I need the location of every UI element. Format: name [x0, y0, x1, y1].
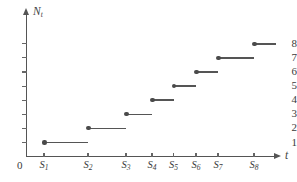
x-tick-S8	[253, 153, 254, 158]
step-segment-level-6	[196, 71, 218, 73]
step-segment-level-3	[126, 114, 152, 116]
x-tick-S4	[151, 153, 152, 158]
x-tick-label-subscript: 1	[45, 163, 49, 172]
step-segment-level-2	[88, 128, 126, 130]
jump-point-S2	[86, 126, 90, 130]
jump-point-S1	[42, 140, 46, 144]
x-tick-label-subscript: 3	[127, 163, 131, 172]
x-tick-S6	[195, 153, 196, 158]
x-axis-label: t	[285, 150, 288, 162]
step-segment-level-7	[218, 57, 254, 59]
y-axis-label-base: N	[33, 5, 41, 17]
y-tick-label-3: 3	[283, 108, 297, 119]
x-tick-label-subscript: 4	[153, 163, 157, 172]
y-tick-label-2: 2	[283, 122, 297, 133]
jump-point-S8	[252, 42, 256, 46]
x-tick-S3	[125, 153, 126, 158]
y-tick-label-7: 7	[283, 52, 297, 63]
x-tick-label-S8: S8	[250, 160, 259, 171]
y-tick-7	[22, 57, 27, 58]
y-tick-8	[22, 43, 27, 44]
x-tick-S2	[87, 153, 88, 158]
y-tick-6	[22, 71, 27, 72]
y-tick-label-5: 5	[283, 80, 297, 91]
x-tick-label-S6: S6	[192, 160, 201, 171]
x-tick-label-S3: S3	[122, 160, 131, 171]
y-axis-arrow-icon	[23, 8, 29, 15]
y-tick-label-8: 8	[283, 38, 297, 49]
y-axis-label: Nt	[33, 6, 43, 18]
y-tick-3	[22, 114, 27, 115]
x-tick-S5	[173, 153, 174, 158]
x-tick-label-subscript: 7	[219, 163, 223, 172]
x-tick-label-S4: S4	[148, 160, 157, 171]
origin-label: 0	[17, 160, 23, 171]
x-tick-label-S5: S5	[169, 160, 178, 171]
y-tick-label-6: 6	[283, 66, 297, 77]
y-tick-label-1: 1	[283, 137, 297, 148]
y-tick-1	[22, 142, 27, 143]
jump-point-S3	[124, 112, 128, 116]
y-tick-label-4: 4	[283, 94, 297, 105]
x-axis-arrow-icon	[274, 153, 281, 159]
jump-point-S6	[194, 70, 198, 74]
jump-point-S4	[150, 98, 154, 102]
step-segment-level-4	[152, 99, 174, 101]
step-segment-level-8	[254, 43, 276, 45]
x-tick-label-subscript: 2	[89, 163, 93, 172]
y-tick-2	[22, 128, 27, 129]
step-segment-level-5	[174, 85, 197, 87]
y-tick-4	[22, 100, 27, 101]
step-function-chart: Nt t 0 87654321 S1S2S3S4S5S6S7S8	[0, 0, 297, 182]
y-tick-5	[22, 86, 27, 87]
jump-point-S7	[216, 56, 220, 60]
y-axis-label-subscript: t	[41, 10, 43, 19]
x-tick-S7	[217, 153, 218, 158]
x-tick-label-subscript: 6	[197, 163, 201, 172]
x-tick-S1	[43, 153, 44, 158]
x-tick-label-S1: S1	[40, 160, 49, 171]
jump-point-S5	[172, 84, 176, 88]
x-tick-label-S2: S2	[84, 160, 93, 171]
step-segment-level-1	[44, 142, 88, 144]
x-tick-label-S7: S7	[214, 160, 223, 171]
x-tick-label-subscript: 8	[255, 163, 259, 172]
x-tick-label-subscript: 5	[174, 163, 178, 172]
